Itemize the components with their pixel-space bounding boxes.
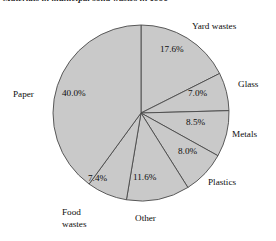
slice-label-paper: Paper (13, 89, 34, 101)
slice-value-metals: 8.5% (186, 117, 205, 127)
slice-label-other: Other (135, 213, 156, 225)
slice-value-other: 11.6% (133, 172, 156, 182)
slice-value-yard-wastes: 17.6% (160, 44, 184, 54)
slice-label-metals: Metals (232, 129, 257, 141)
slice-label-glass: Glass (238, 79, 258, 91)
slice-value-food-wastes: 7.4% (88, 173, 107, 183)
slice-value-glass: 7.0% (188, 88, 207, 98)
pie-chart-figure: Materials in municipal solid wastes in 1… (0, 0, 276, 241)
pie-chart-svg (0, 0, 276, 241)
slice-label-yard-wastes: Yard wastes (192, 21, 236, 33)
slice-label-food-wastes: Food wastes (62, 207, 87, 230)
slice-value-paper: 40.0% (62, 88, 86, 98)
slice-label-food-wastes-line1: Food (62, 207, 81, 217)
slice-label-plastics: Plastics (208, 177, 236, 189)
slice-value-plastics: 8.0% (178, 146, 197, 156)
slice-label-food-wastes-line2: wastes (62, 219, 87, 229)
